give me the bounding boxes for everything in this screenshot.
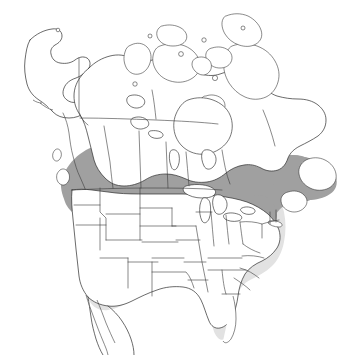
arctic-islet-6 bbox=[133, 82, 137, 86]
nova-scotia bbox=[281, 191, 307, 212]
arctic-islet-4 bbox=[241, 26, 245, 30]
map-canvas bbox=[0, 0, 355, 355]
range-map-figure bbox=[0, 0, 355, 355]
vancouver-island bbox=[57, 169, 70, 185]
arctic-islet-3 bbox=[148, 34, 152, 38]
lake-huron bbox=[213, 195, 227, 215]
arctic-islet-1 bbox=[179, 52, 184, 57]
james-bay bbox=[202, 150, 216, 169]
hudson-bay bbox=[174, 98, 233, 155]
arctic-islet-5 bbox=[212, 75, 217, 80]
lake-michigan bbox=[200, 198, 211, 223]
arctic-islet-2 bbox=[202, 38, 206, 42]
arctic-islet-7 bbox=[56, 28, 60, 32]
